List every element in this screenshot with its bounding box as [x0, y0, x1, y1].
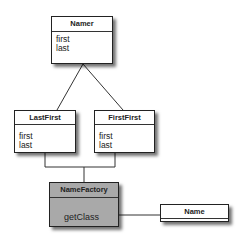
- association-line-subclasses: [45, 153, 115, 167]
- class-name-namefactory: NameFactory: [50, 183, 118, 198]
- class-name-name: Name: [161, 205, 228, 219]
- method-getclass: getClass: [64, 213, 118, 222]
- attribute-last: last: [19, 141, 75, 150]
- class-box-name[interactable]: Name: [160, 204, 229, 222]
- class-box-namer[interactable]: Namer first last: [51, 16, 113, 64]
- class-name-firstfirst: FirstFirst: [95, 111, 154, 125]
- attribute-last: last: [56, 44, 112, 53]
- class-name-lastfirst: LastFirst: [15, 111, 75, 125]
- inheritance-line-firstfirst: [83, 64, 123, 110]
- inheritance-line-lastfirst: [57, 64, 83, 110]
- class-box-lastfirst[interactable]: LastFirst first last: [14, 110, 76, 153]
- attribute-last: last: [99, 141, 154, 150]
- class-box-firstfirst[interactable]: FirstFirst first last: [94, 110, 155, 153]
- class-box-namefactory[interactable]: NameFactory getClass: [49, 182, 119, 227]
- class-name-namer: Namer: [52, 17, 112, 32]
